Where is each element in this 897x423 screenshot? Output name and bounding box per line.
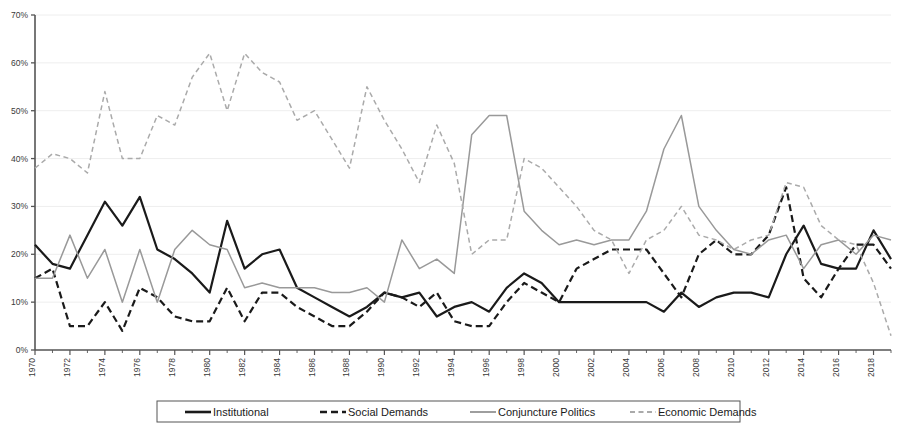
x-axis-tick-label: 2000 (551, 358, 561, 377)
x-axis-tick-label: 1976 (132, 358, 142, 377)
axes (35, 15, 891, 350)
x-axis-tick-label: 2008 (691, 358, 701, 377)
x-axis-tick-label: 2016 (831, 358, 841, 377)
y-axis-tick-label: 20% (11, 249, 28, 259)
x-axis-tick-label: 1996 (481, 358, 491, 377)
x-axis-tick-label: 1986 (307, 358, 317, 377)
legend-label-conjuncture-politics: Conjuncture Politics (498, 406, 596, 418)
x-axis-tick-label: 1982 (237, 358, 247, 377)
gridlines (35, 15, 891, 302)
x-axis-tick-label: 2006 (656, 358, 666, 377)
x-axis-tick-label: 2012 (761, 358, 771, 377)
x-axis-tick-label: 2002 (586, 358, 596, 377)
x-axis-tick-label: 1972 (62, 358, 72, 377)
x-axis-tick-label: 2010 (726, 358, 736, 377)
x-axis-tick-label: 1978 (167, 358, 177, 377)
data-series-layer (35, 53, 891, 335)
x-axis-tick-label: 2014 (796, 358, 806, 377)
legend-label-institutional: Institutional (213, 406, 269, 418)
legend-label-economic-demands: Economic Demands (658, 406, 757, 418)
y-axis-tick-labels: 0%10%20%30%40%50%60%70% (11, 10, 35, 355)
x-axis-tick-label: 2004 (621, 358, 631, 377)
x-axis-tick-label: 1992 (411, 358, 421, 377)
y-axis-tick-label: 30% (11, 201, 28, 211)
x-axis-tick-label: 1998 (516, 358, 526, 377)
x-axis-tick-label: 1980 (202, 358, 212, 377)
x-axis-tick-label: 1984 (272, 358, 282, 377)
y-axis-tick-label: 40% (11, 154, 28, 164)
legend-label-social-demands: Social Demands (348, 406, 429, 418)
x-axis-tick-label: 1988 (341, 358, 351, 377)
y-axis-tick-label: 60% (11, 58, 28, 68)
series-line-institutional (35, 197, 891, 317)
series-line-economic-demands (35, 53, 891, 335)
chart-container: 0%10%20%30%40%50%60%70% 1970197219741976… (0, 0, 897, 423)
x-axis-tick-label: 1970 (27, 358, 37, 377)
y-axis-tick-label: 0% (16, 345, 29, 355)
x-axis-tick-label: 1994 (446, 358, 456, 377)
y-axis-tick-label: 10% (11, 297, 28, 307)
chart-legend: InstitutionalSocial DemandsConjuncture P… (157, 401, 757, 422)
y-axis-tick-label: 70% (11, 10, 28, 20)
line-chart: 0%10%20%30%40%50%60%70% 1970197219741976… (0, 0, 897, 423)
x-axis-tick-labels: 1970197219741976197819801982198419861988… (27, 350, 891, 377)
x-axis-tick-label: 2018 (866, 358, 876, 377)
x-axis-tick-label: 1990 (376, 358, 386, 377)
y-axis-tick-label: 50% (11, 106, 28, 116)
x-axis-tick-label: 1974 (97, 358, 107, 377)
